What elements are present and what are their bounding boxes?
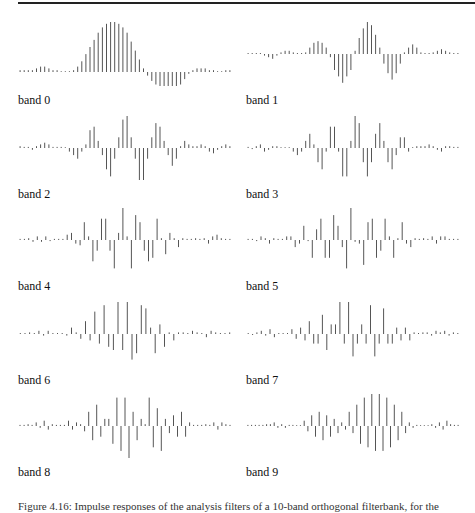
impulse-response-chart xyxy=(246,200,460,272)
stem-plot-band-1 xyxy=(246,14,471,86)
panel-label: band 8 xyxy=(18,465,50,479)
panel-label: band 6 xyxy=(18,373,50,387)
impulse-response-chart xyxy=(18,14,232,86)
stem-plot-band-9 xyxy=(246,386,471,458)
panel-label: band 2 xyxy=(18,187,50,201)
impulse-response-chart xyxy=(246,14,460,86)
stem-plot-band-7 xyxy=(246,294,471,366)
stem-plot-band-0 xyxy=(18,14,243,86)
stem-plot-band-6 xyxy=(18,294,243,366)
impulse-response-chart xyxy=(18,108,232,180)
impulse-response-chart xyxy=(246,386,460,458)
impulse-response-chart xyxy=(18,386,232,458)
panel-label: band 1 xyxy=(246,93,278,107)
impulse-response-chart xyxy=(246,108,460,180)
impulse-response-chart xyxy=(18,294,232,366)
impulse-response-chart xyxy=(246,294,460,366)
stem-plot-band-5 xyxy=(246,200,471,272)
figure-caption: Figure 4.16: Impulse responses of the an… xyxy=(18,500,475,513)
stem-plot-band-2 xyxy=(18,108,243,180)
panel-label: band 5 xyxy=(246,279,278,293)
panel-label: band 9 xyxy=(246,465,278,479)
top-rule xyxy=(18,2,475,4)
panel-label: band 4 xyxy=(18,279,50,293)
panel-label: band 7 xyxy=(246,373,278,387)
stem-plot-band-8 xyxy=(18,386,243,458)
stem-plot-band-4 xyxy=(18,200,243,272)
panel-label: band 3 xyxy=(246,187,278,201)
stem-plot-band-3 xyxy=(246,108,471,180)
panel-label: band 0 xyxy=(18,93,50,107)
impulse-response-chart xyxy=(18,200,232,272)
